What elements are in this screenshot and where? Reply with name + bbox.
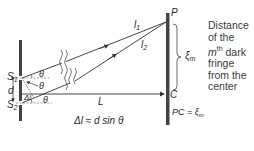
fringe-distance-description: Distance of the mth dark fringe from the… [208,20,249,93]
label-s1: S1 [7,71,18,83]
equation-path-difference: Δl ≈ d sin θ [73,115,124,126]
label-xi-m: ξm [185,50,195,62]
break-mark-upper [60,50,63,74]
label-theta-1: θ [39,69,44,79]
double-slit-diagram: S1 S2 d θ θ θ Δl L P C l1 l2 ξm Δl ≈ d s… [0,0,254,151]
viewing-screen [166,13,170,125]
label-l2: l2 [141,39,147,51]
label-P: P [171,7,178,18]
break-mark-lower [65,50,68,90]
theta-indicator-arrow [27,82,38,86]
label-theta-2: θ [39,81,44,91]
theta-arc-s1 [31,75,32,79]
label-d: d [8,85,14,96]
xi-brace [173,24,181,90]
label-l1: l1 [134,19,140,31]
label-theta-3: θ [43,95,48,105]
label-delta-l: Δl [23,93,31,102]
label-s2: S2 [7,99,18,111]
label-C: C [170,89,178,100]
slit-barrier [19,40,22,121]
equation-pc: PC = ξm [172,107,204,118]
label-L: L [98,96,104,107]
